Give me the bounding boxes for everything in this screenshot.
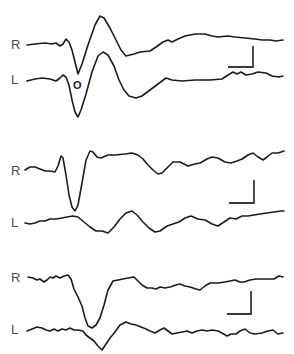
trace-left-panel-1 <box>27 52 283 117</box>
scale-bar-panel-1 <box>228 46 253 67</box>
panel-2 <box>25 151 284 233</box>
label-right-panel-1: R <box>11 38 20 51</box>
panel-1 <box>27 16 283 117</box>
panel-3 <box>27 275 283 350</box>
trace-right-panel-1 <box>27 16 283 74</box>
trace-right-panel-3 <box>28 275 283 328</box>
peak-marker-o: O <box>73 80 82 91</box>
evoked-potential-figure: R L O R L R L <box>0 0 294 354</box>
trace-right-panel-2 <box>25 151 284 211</box>
label-left-panel-2: L <box>11 216 18 229</box>
label-right-panel-2: R <box>11 164 20 177</box>
label-left-panel-1: L <box>11 73 18 86</box>
trace-left-panel-3 <box>27 322 283 350</box>
label-left-panel-3: L <box>11 323 18 336</box>
label-right-panel-3: R <box>11 271 20 284</box>
waveform-plot <box>0 0 294 354</box>
scale-bar-panel-2 <box>229 180 254 203</box>
trace-left-panel-2 <box>25 211 284 233</box>
scale-bar-panel-3 <box>227 291 251 314</box>
